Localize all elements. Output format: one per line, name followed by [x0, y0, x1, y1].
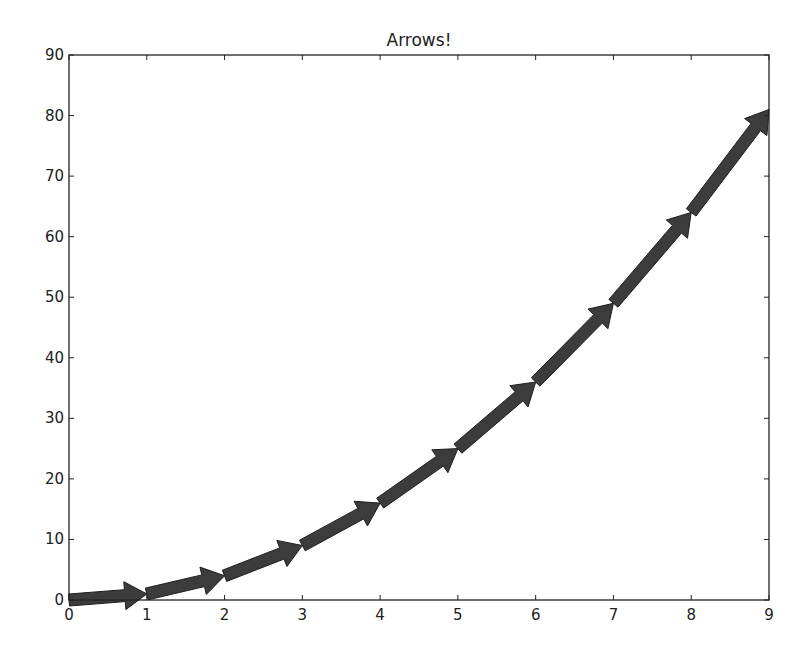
figure-background [0, 0, 803, 658]
y-tick-label: 80 [45, 107, 64, 125]
x-tick-label: 9 [764, 606, 774, 624]
y-tick-label: 70 [45, 167, 64, 185]
x-tick-label: 0 [64, 606, 74, 624]
x-tick-label: 1 [142, 606, 152, 624]
chart-title: Arrows! [387, 30, 452, 50]
x-tick-label: 7 [609, 606, 619, 624]
y-tick-label: 50 [45, 288, 64, 306]
y-tick-label: 30 [45, 409, 64, 427]
x-tick-label: 2 [220, 606, 230, 624]
chart-figure: Arrows! 0123456789 0102030405060708090 [0, 0, 803, 658]
y-tick-label: 10 [45, 530, 64, 548]
x-tick-label: 5 [453, 606, 463, 624]
x-tick-label: 6 [531, 606, 541, 624]
y-tick-label: 0 [54, 591, 64, 609]
y-tick-label: 60 [45, 228, 64, 246]
x-tick-label: 8 [686, 606, 696, 624]
x-tick-label: 3 [298, 606, 308, 624]
x-tick-label: 4 [375, 606, 385, 624]
y-tick-label: 20 [45, 470, 64, 488]
y-tick-label: 40 [45, 349, 64, 367]
y-tick-label: 90 [45, 46, 64, 64]
